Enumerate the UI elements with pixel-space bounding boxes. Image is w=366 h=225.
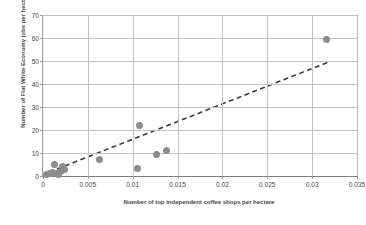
data-point: [163, 147, 170, 154]
y-axis-tick-label: 0: [35, 173, 39, 180]
scatter-chart: Number of Flat White Economy jobs per he…: [0, 0, 366, 225]
x-axis-tick-label: 0: [41, 181, 45, 188]
gridline-horizontal: [43, 61, 357, 62]
gridline-horizontal: [43, 107, 357, 108]
y-axis-tick: [40, 107, 43, 108]
data-point: [134, 165, 141, 172]
x-axis-tick-label: 0.025: [259, 181, 276, 188]
y-axis-tick: [40, 38, 43, 39]
y-axis-tick: [40, 130, 43, 131]
gridline-vertical: [178, 15, 179, 176]
y-axis-tick-label: 60: [32, 35, 39, 42]
gridline-vertical: [267, 15, 268, 176]
gridline-horizontal: [43, 84, 357, 85]
x-axis-tick: [178, 176, 179, 179]
gridline-vertical: [222, 15, 223, 176]
gridline-horizontal: [43, 130, 357, 131]
x-axis-tick-label: 0.015: [169, 181, 186, 188]
x-axis-tick: [133, 176, 134, 179]
y-axis-tick-label: 30: [32, 104, 39, 111]
y-axis-tick-label: 70: [32, 12, 39, 19]
x-axis-tick: [312, 176, 313, 179]
y-axis-tick-label: 40: [32, 81, 39, 88]
plot-area: 01020304050607000.0050.010.0150.020.0250…: [42, 15, 358, 177]
y-axis-tick-label: 10: [32, 150, 39, 157]
y-axis-tick-label: 50: [32, 58, 39, 65]
x-axis-tick: [88, 176, 89, 179]
x-axis-tick-label: 0.03: [306, 181, 319, 188]
y-axis-tick: [40, 15, 43, 16]
x-axis-tick: [222, 176, 223, 179]
y-axis-tick: [40, 61, 43, 62]
gridline-horizontal: [43, 153, 357, 154]
x-axis-tick-label: 0.01: [126, 181, 139, 188]
y-axis-tick: [40, 153, 43, 154]
trendline: [43, 15, 357, 176]
gridline-horizontal: [43, 15, 357, 16]
data-point: [323, 36, 330, 43]
gridline-horizontal: [43, 38, 357, 39]
x-axis-tick: [357, 176, 358, 179]
y-axis-title: Number of Flat White Economy jobs per he…: [19, 0, 26, 147]
x-axis-tick-label: 0.005: [80, 181, 97, 188]
x-axis-tick: [267, 176, 268, 179]
y-axis-tick: [40, 84, 43, 85]
gridline-vertical: [312, 15, 313, 176]
gridline-vertical: [88, 15, 89, 176]
gridline-vertical: [133, 15, 134, 176]
x-axis-tick-label: 0.02: [216, 181, 229, 188]
x-axis-tick-label: 0.035: [349, 181, 366, 188]
y-axis-tick-label: 20: [32, 127, 39, 134]
x-axis-title: Number of top independent coffee shops p…: [42, 198, 356, 205]
